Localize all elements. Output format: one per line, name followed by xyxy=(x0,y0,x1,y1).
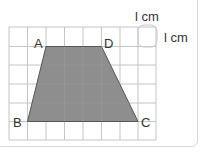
unit-label-horizontal: l cm xyxy=(135,10,159,23)
vertex-label-b: B xyxy=(13,116,22,129)
unit-cell-highlight xyxy=(138,25,157,47)
vertex-label-c: C xyxy=(141,116,150,129)
vertex-label-a: A xyxy=(34,37,43,50)
grid-diagram xyxy=(0,0,204,152)
unit-label-vertical: l cm xyxy=(164,31,188,44)
vertex-label-d: D xyxy=(104,37,113,50)
